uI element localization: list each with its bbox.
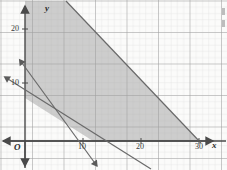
y-axis-label: y [45,4,49,13]
y-tick-label-20: 20 [11,25,19,33]
page-edge-mark-top [222,8,225,15]
graph-figure: y x O 20 10 10 20 30 [0,0,227,170]
x-tick-label-30: 30 [195,143,203,151]
page-edge-mark-bottom [222,20,225,27]
x-tick-label-20: 20 [136,143,144,151]
x-axis-label: x [212,141,217,150]
origin-label: O [14,143,21,152]
y-tick-label-10: 10 [11,79,19,87]
plot-canvas [0,0,227,170]
x-tick-label-10: 10 [78,143,86,151]
